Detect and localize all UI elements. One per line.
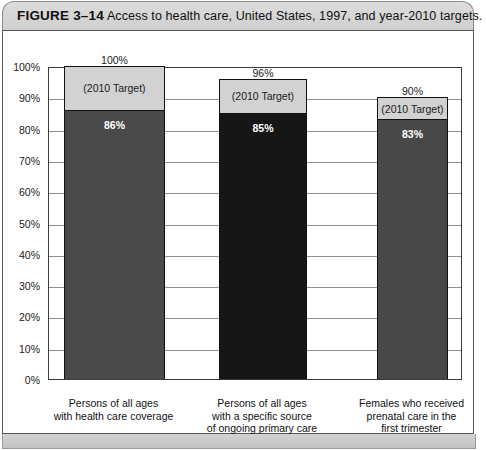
bar-target-value-label: 96% <box>219 67 307 79</box>
category-label: Persons of all ageswith health care cove… <box>34 397 194 422</box>
bar-target-value-label: 90% <box>377 85 448 97</box>
bar-actual-value-label: 85% <box>220 122 306 134</box>
category-label-line: Persons of all ages <box>34 397 194 410</box>
y-tick-label-100: 100% <box>13 61 40 73</box>
y-tick-label-80: 80% <box>19 124 40 136</box>
bar-actual-value-label: 86% <box>65 119 164 131</box>
y-tick-label-90: 90% <box>19 92 40 104</box>
y-tick-label-50: 50% <box>19 218 40 230</box>
bar-target-value-label: 100% <box>64 54 165 66</box>
y-tick-label-0: 0% <box>25 374 40 386</box>
bar-target-segment-label: (2010 Target) <box>378 103 447 115</box>
bar-segment-actual[interactable]: 83% <box>377 119 448 379</box>
y-tick-label-30: 30% <box>19 280 40 292</box>
category-label-line: of ongoing primary care <box>182 422 342 435</box>
x-axis-category-labels: Persons of all ageswith health care cove… <box>48 383 462 433</box>
bar-target-segment-label: (2010 Target) <box>220 90 306 102</box>
figure-number: FIGURE 3–14 <box>17 8 104 23</box>
figure-footer-band <box>2 434 476 449</box>
y-axis-tick-labels: 0%10%20%30%40%50%60%70%80%90%100% <box>3 67 44 380</box>
category-label-line: with health care coverage <box>34 410 194 423</box>
bars-layer: (2010 Target)86%100%(2010 Target)85%96%(… <box>49 68 461 379</box>
category-label: Females who receivedprenatal care in the… <box>332 397 486 435</box>
figure-caption: FIGURE 3–14 Access to health care, Unite… <box>17 8 482 23</box>
figure-caption-text: Access to health care, United States, 19… <box>107 9 483 23</box>
y-tick-label-20: 20% <box>19 311 40 323</box>
bar-group[interactable]: (2010 Target)86% <box>64 66 165 379</box>
category-label-line: first trimester <box>332 422 486 435</box>
bar-group[interactable]: (2010 Target)83% <box>377 97 448 379</box>
bar-segment-target[interactable]: (2010 Target) <box>377 97 448 119</box>
y-tick-label-40: 40% <box>19 249 40 261</box>
category-label-line: with a specific source <box>182 410 342 423</box>
y-tick-label-10: 10% <box>19 343 40 355</box>
y-tick-label-70: 70% <box>19 155 40 167</box>
category-label-line: Persons of all ages <box>182 397 342 410</box>
figure-header-band: FIGURE 3–14 Access to health care, Unite… <box>2 1 474 31</box>
bar-target-segment-label: (2010 Target) <box>65 82 164 94</box>
bar-actual-value-label: 83% <box>378 128 447 140</box>
category-label-line: prenatal care in the <box>332 410 486 423</box>
category-label: Persons of all ageswith a specific sourc… <box>182 397 342 435</box>
bar-segment-actual[interactable]: 86% <box>64 110 165 379</box>
bar-group[interactable]: (2010 Target)85% <box>219 79 307 379</box>
bar-segment-actual[interactable]: 85% <box>219 113 307 379</box>
figure-body: 0%10%20%30%40%50%60%70%80%90%100% (2010 … <box>2 30 474 434</box>
y-tick-label-60: 60% <box>19 186 40 198</box>
category-label-line: Females who received <box>332 397 486 410</box>
bar-segment-target[interactable]: (2010 Target) <box>64 66 165 110</box>
plot-area: (2010 Target)86%100%(2010 Target)85%96%(… <box>48 67 462 380</box>
bar-segment-target[interactable]: (2010 Target) <box>219 79 307 113</box>
